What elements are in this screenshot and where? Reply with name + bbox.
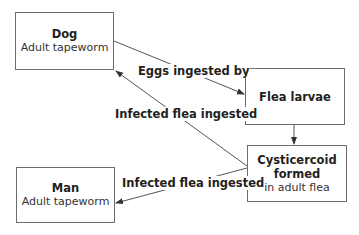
node-cysticercoid-subtitle: in adult flea: [264, 181, 330, 195]
node-man-title: Man: [52, 181, 79, 195]
node-man-subtitle: Adult tapeworm: [22, 195, 110, 209]
node-dog: Dog Adult tapeworm: [15, 12, 114, 70]
node-cysticercoid-title-line2: formed: [274, 167, 321, 181]
node-flea-larvae-title: Flea larvae: [259, 90, 331, 104]
node-man: Man Adult tapeworm: [16, 167, 115, 223]
edge-label-eggs-ingested: Eggs ingested by: [137, 64, 250, 78]
edge-label-infected-flea-to-man: Infected flea ingested: [121, 176, 265, 190]
node-cysticercoid: Cysticercoid formed in adult flea: [247, 145, 347, 202]
node-flea-larvae: Flea larvae: [245, 68, 345, 125]
edge-label-infected-flea-to-dog: Infected flea ingested: [114, 107, 258, 121]
node-dog-title: Dog: [52, 27, 78, 41]
node-dog-subtitle: Adult tapeworm: [21, 41, 109, 55]
node-cysticercoid-title-line1: Cysticercoid: [257, 153, 336, 167]
